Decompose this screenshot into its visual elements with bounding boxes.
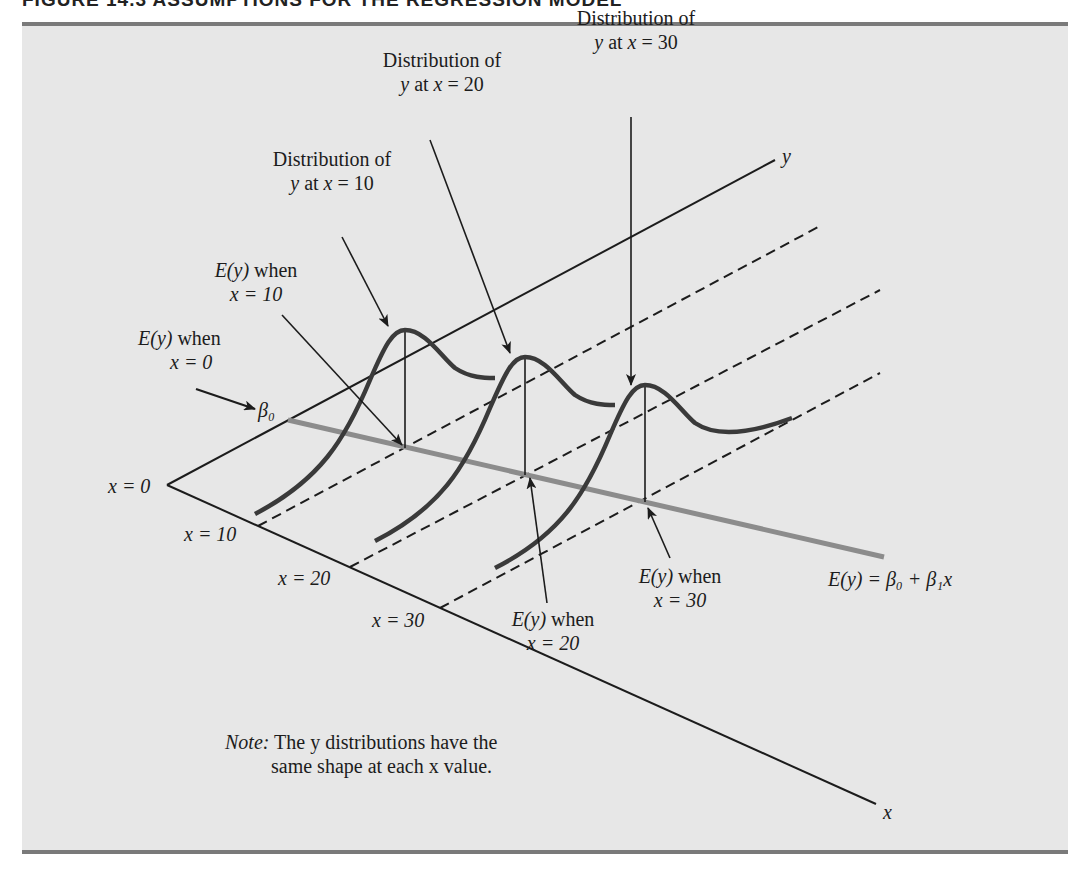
label-regression-equation: E(y) = β₀ + β₁x [828, 567, 952, 591]
label-y-axis: y [782, 144, 791, 168]
label-origin: x = 0 [108, 474, 150, 498]
label-dist-x20: Distribution of y at x = 20 [362, 48, 522, 96]
label-beta0: β₀ [258, 398, 275, 422]
label-ey-x0: E(y) when x = 0 [138, 326, 248, 374]
label-ey-x10: E(y) when x = 10 [196, 258, 316, 306]
note-text: Note: The y distributions have the same … [225, 730, 497, 778]
arrow-ey-x30 [648, 508, 670, 558]
label-x30: x = 30 [372, 608, 424, 632]
arrow-ey-x0 [196, 389, 255, 409]
label-dist-x10: Distribution of y at x = 10 [252, 147, 412, 195]
label-ey-x30: E(y) when x = 30 [625, 564, 735, 612]
arrow-dist-x20 [430, 140, 510, 353]
label-x20: x = 20 [278, 566, 330, 590]
arrow-dist-x10 [342, 237, 388, 326]
label-dist-x30: Distribution of y at x = 30 [556, 6, 716, 54]
arrow-ey-x10 [282, 315, 402, 445]
y-axis [167, 160, 775, 485]
label-ey-x20: E(y) when x = 20 [498, 607, 608, 655]
label-x-axis: x [883, 800, 892, 824]
label-x10: x = 10 [184, 522, 236, 546]
regression-diagram [0, 0, 1084, 872]
dashed-line-x10 [258, 225, 822, 526]
arrow-ey-x20 [530, 478, 547, 603]
